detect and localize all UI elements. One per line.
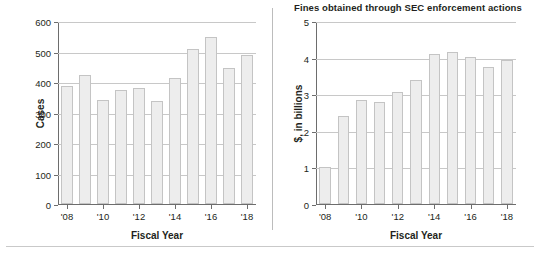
x-tick-label: '10 — [97, 211, 109, 222]
x-tick-label: '12 — [392, 211, 404, 222]
bar — [356, 100, 367, 204]
bar — [483, 67, 494, 204]
x-tick-mark — [175, 205, 176, 209]
x-tick-label: '14 — [428, 211, 440, 222]
x-tick-mark — [434, 205, 435, 209]
y-tick-label: 4 — [304, 53, 309, 64]
y-tick-label: 5 — [304, 17, 309, 28]
bar — [338, 116, 349, 204]
y-tick-mark — [312, 59, 316, 60]
y-tick-mark — [312, 168, 316, 169]
y-tick-label: 400 — [35, 78, 51, 89]
x-tick-label: '18 — [241, 211, 253, 222]
bar — [151, 101, 162, 204]
bar — [115, 90, 126, 204]
x-axis-line — [316, 204, 516, 205]
y-tick-mark — [54, 205, 58, 206]
bar — [61, 86, 72, 204]
bar — [187, 49, 198, 204]
x-tick-mark — [247, 205, 248, 209]
x-tick-label: '12 — [133, 211, 145, 222]
y-tick-label: 1 — [304, 163, 309, 174]
y-tick-label: 3 — [304, 90, 309, 101]
x-tick-mark — [471, 205, 472, 209]
x-tick-label: '18 — [501, 211, 513, 222]
x-tick-mark — [211, 205, 212, 209]
x-tick-mark — [507, 205, 508, 209]
y-tick-mark — [54, 175, 58, 176]
y-tick-label: 600 — [35, 17, 51, 28]
y-tick-label: 2 — [304, 126, 309, 137]
bar — [374, 102, 385, 204]
y-tick-mark — [54, 83, 58, 84]
y-tick-label: 0 — [304, 200, 309, 211]
bar — [133, 88, 144, 204]
x-axis-line — [58, 204, 256, 205]
y-tick-mark — [312, 95, 316, 96]
x-tick-label: '16 — [205, 211, 217, 222]
bar — [205, 37, 216, 204]
x-tick-label: '16 — [464, 211, 476, 222]
x-tick-mark — [103, 205, 104, 209]
y-gridline — [316, 59, 516, 60]
chart-panel-fines: Fines obtained through SEC enforcement a… — [272, 0, 540, 262]
y-gridline — [316, 22, 516, 23]
x-tick-mark — [67, 205, 68, 209]
plot-area-fines: $, in billions Fiscal Year 012345'08'10'… — [316, 22, 516, 205]
x-tick-mark — [139, 205, 140, 209]
chart-panel-cases: Cases Fiscal Year 0100200300400500600'08… — [0, 0, 272, 262]
bottom-rule — [6, 246, 534, 247]
x-tick-label: '14 — [169, 211, 181, 222]
bar — [410, 80, 421, 204]
plot-area-cases: Cases Fiscal Year 0100200300400500600'08… — [58, 22, 256, 205]
bar — [465, 57, 476, 204]
y-gridline — [58, 22, 256, 23]
y-tick-mark — [312, 205, 316, 206]
y-tick-mark — [54, 114, 58, 115]
bar — [241, 55, 252, 204]
x-axis-title: Fiscal Year — [316, 230, 516, 241]
bar — [392, 92, 403, 204]
bar — [97, 100, 108, 204]
chart-title: Fines obtained through SEC enforcement a… — [294, 2, 522, 13]
x-tick-mark — [325, 205, 326, 209]
bar — [319, 167, 330, 204]
bar — [223, 68, 234, 204]
y-axis-title: $, in billions — [293, 73, 304, 153]
x-tick-mark — [398, 205, 399, 209]
y-tick-label: 0 — [46, 200, 51, 211]
y-axis-line — [316, 22, 317, 205]
x-tick-label: '10 — [355, 211, 367, 222]
y-tick-label: 300 — [35, 108, 51, 119]
x-tick-mark — [361, 205, 362, 209]
y-tick-mark — [54, 144, 58, 145]
bar — [79, 75, 90, 204]
x-axis-title: Fiscal Year — [58, 230, 256, 241]
bar — [169, 78, 180, 204]
figure-container: Cases Fiscal Year 0100200300400500600'08… — [0, 0, 540, 262]
y-tick-label: 200 — [35, 139, 51, 150]
y-tick-label: 500 — [35, 47, 51, 58]
bar — [429, 54, 440, 204]
x-tick-label: '08 — [61, 211, 73, 222]
x-tick-label: '08 — [319, 211, 331, 222]
y-tick-mark — [312, 132, 316, 133]
y-tick-mark — [54, 53, 58, 54]
y-tick-label: 100 — [35, 169, 51, 180]
bar — [447, 52, 458, 204]
y-tick-mark — [54, 22, 58, 23]
y-tick-mark — [312, 22, 316, 23]
y-gridline — [58, 53, 256, 54]
bar — [501, 60, 512, 204]
